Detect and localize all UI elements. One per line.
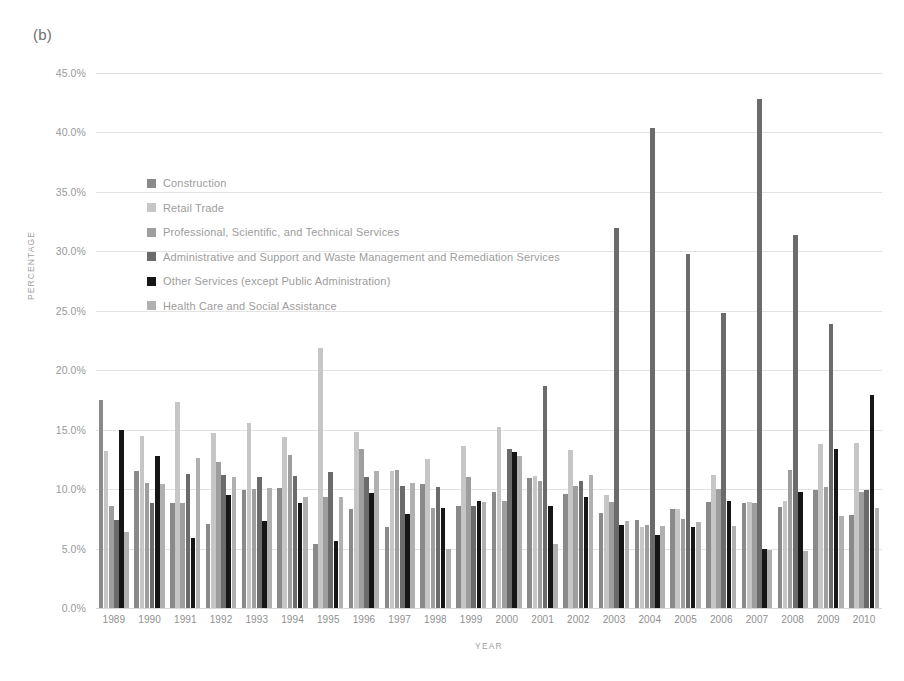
legend-swatch-icon xyxy=(147,228,156,237)
bar xyxy=(436,487,441,608)
bar xyxy=(456,506,461,608)
figure-panel-b: (b) PERCENTAGE 0.0%5.0%10.0%15.0%20.0%25… xyxy=(0,0,904,681)
bar xyxy=(584,497,589,608)
x-axis-tick-label: 2009 xyxy=(817,614,840,625)
bar xyxy=(742,503,747,608)
bar xyxy=(507,449,512,608)
bar xyxy=(339,497,344,608)
bar-group xyxy=(778,73,808,608)
bar-group xyxy=(385,73,415,608)
legend-label: Retail Trade xyxy=(163,202,224,214)
bar xyxy=(104,451,109,608)
bar xyxy=(257,477,262,608)
bar xyxy=(609,502,614,608)
bar xyxy=(721,313,726,608)
bar xyxy=(226,495,231,608)
bar xyxy=(425,459,430,608)
bar xyxy=(461,446,466,608)
bar xyxy=(635,520,640,608)
bar xyxy=(573,486,578,608)
bar xyxy=(196,458,201,608)
bar xyxy=(334,541,339,608)
bar xyxy=(277,488,282,608)
y-axis-tick-labels: 0.0%5.0%10.0%15.0%20.0%25.0%30.0%35.0%40… xyxy=(0,73,96,608)
bar xyxy=(589,475,594,608)
bar xyxy=(282,437,287,608)
bar-group xyxy=(349,73,379,608)
bar xyxy=(323,497,328,608)
bar-group xyxy=(670,73,700,608)
y-axis-tick-label: 25.0% xyxy=(56,305,86,317)
legend-item[interactable]: Construction xyxy=(147,171,617,196)
y-axis-tick-label: 10.0% xyxy=(56,483,86,495)
bar xyxy=(119,430,124,608)
bar-group xyxy=(742,73,772,608)
bar xyxy=(829,324,834,608)
y-axis-tick-label: 30.0% xyxy=(56,245,86,257)
bar xyxy=(517,456,522,608)
bar xyxy=(538,481,543,608)
bar xyxy=(834,449,839,608)
bar xyxy=(477,501,482,608)
bar xyxy=(160,484,165,608)
bar xyxy=(783,501,788,608)
bar xyxy=(145,483,150,608)
bar xyxy=(864,490,869,608)
x-axis-tick-label: 1994 xyxy=(281,614,304,625)
x-axis-tick-labels: 1989199019911992199319941995199619971998… xyxy=(96,614,882,632)
legend-item[interactable]: Retail Trade xyxy=(147,196,617,221)
legend-item[interactable]: Professional, Scientific, and Technical … xyxy=(147,220,617,245)
bar xyxy=(839,516,844,608)
bar xyxy=(670,509,675,608)
bar xyxy=(446,549,451,608)
bar xyxy=(492,492,497,609)
panel-label: (b) xyxy=(33,26,52,43)
bar xyxy=(242,490,247,608)
bar xyxy=(660,526,665,608)
bar xyxy=(579,481,584,608)
bar xyxy=(410,483,415,608)
bar xyxy=(732,526,737,608)
y-axis-tick-label: 20.0% xyxy=(56,364,86,376)
x-axis-tick-label: 1990 xyxy=(138,614,161,625)
bar xyxy=(757,99,762,608)
bar xyxy=(441,508,446,608)
bar xyxy=(298,503,303,608)
bar xyxy=(114,520,119,608)
bar xyxy=(288,455,293,608)
bar xyxy=(512,452,517,608)
bar-group xyxy=(706,73,736,608)
bar xyxy=(706,502,711,608)
bar xyxy=(543,386,548,608)
legend-item[interactable]: Other Services (except Public Administra… xyxy=(147,269,617,294)
bar xyxy=(150,503,155,608)
bar xyxy=(640,527,645,608)
bar xyxy=(349,509,354,608)
bar xyxy=(849,515,854,608)
bar-group xyxy=(170,73,200,608)
legend-swatch-icon xyxy=(147,277,156,286)
x-axis-tick-label: 1997 xyxy=(388,614,411,625)
x-axis-tick-label: 1991 xyxy=(174,614,197,625)
bar xyxy=(875,508,880,608)
legend-item[interactable]: Administrative and Support and Waste Man… xyxy=(147,245,617,270)
bar-group xyxy=(456,73,486,608)
bar xyxy=(813,490,818,608)
bar xyxy=(767,550,772,608)
legend-swatch-icon xyxy=(147,179,156,188)
legend-label: Other Services (except Public Administra… xyxy=(163,275,390,287)
bar xyxy=(752,503,757,608)
bar xyxy=(354,432,359,608)
bar xyxy=(313,544,318,608)
legend-label: Construction xyxy=(163,177,227,189)
bar-group xyxy=(420,73,450,608)
bar xyxy=(696,522,701,608)
x-axis-tick-label: 1999 xyxy=(460,614,483,625)
bar-group xyxy=(635,73,665,608)
bar-group xyxy=(599,73,629,608)
bar xyxy=(170,503,175,608)
legend-item[interactable]: Health Care and Social Assistance xyxy=(147,294,617,319)
bar xyxy=(563,494,568,608)
bar xyxy=(727,501,732,608)
bar xyxy=(155,456,160,608)
